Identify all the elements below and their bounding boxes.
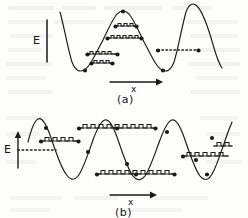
turning-point-marker	[165, 130, 169, 134]
level-left-wave-b	[39, 138, 81, 144]
position-axis-arrowhead-b	[150, 192, 157, 199]
position-axis-arrowhead-a	[156, 79, 163, 86]
level-barrier-mid-a	[105, 36, 143, 41]
turning-point-marker	[194, 158, 198, 162]
energy-axis-label-b: E	[4, 144, 11, 155]
turning-point-marker	[44, 126, 48, 130]
level-upper-band-b	[77, 125, 158, 131]
energy-axis-label-a: E	[33, 35, 40, 46]
figure-root: E x (a)	[0, 0, 248, 218]
turning-point-marker	[210, 136, 214, 140]
panel-caption-b: (b)	[115, 206, 132, 218]
turning-point-marker	[86, 150, 90, 154]
level-deep-well-upper-a	[85, 52, 119, 57]
level-right-well-dotted-a	[156, 48, 201, 52]
turning-point-marker	[125, 162, 129, 166]
level-right-short-b	[213, 143, 233, 147]
level-lower-band-b	[95, 171, 177, 177]
panel-a: E x (a)	[0, 0, 248, 108]
panel-b: E x (b)	[0, 104, 248, 218]
panel-a-plot	[0, 0, 248, 108]
turning-point-marker	[161, 68, 165, 72]
energy-axis-arrowhead-b	[15, 131, 21, 138]
turning-point-marker	[121, 9, 125, 13]
turning-point-marker	[83, 68, 87, 72]
turning-point-marker	[205, 172, 209, 176]
level-right-wave-b	[181, 153, 229, 159]
panel-b-plot	[0, 104, 248, 218]
level-deep-well-lower-a	[89, 61, 114, 66]
